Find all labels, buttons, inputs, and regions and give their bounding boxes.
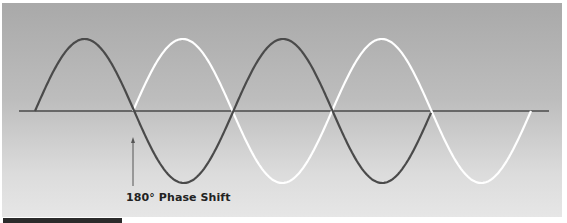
phase-shift-label: 180° Phase Shift bbox=[126, 191, 231, 204]
sine-wave-diagram bbox=[0, 0, 567, 223]
decorative-bar bbox=[3, 218, 122, 223]
annotation-arrowhead-icon bbox=[131, 137, 135, 143]
